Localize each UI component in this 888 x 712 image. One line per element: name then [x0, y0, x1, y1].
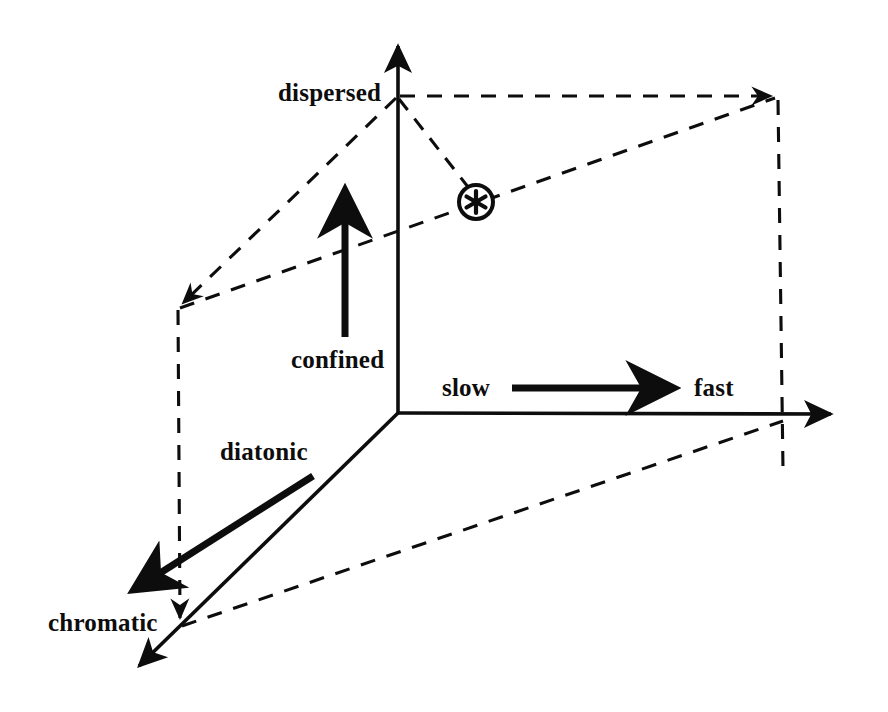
label-slow: slow	[442, 375, 490, 400]
label-chromatic: chromatic	[48, 610, 158, 635]
direction-arrows	[135, 192, 672, 589]
box-edge-top-left-receding	[183, 98, 396, 303]
label-diatonic: diatonic	[220, 439, 308, 464]
diatonic-chromatic-direction-arrow	[135, 476, 313, 589]
box-edge-left-vertical	[178, 310, 180, 618]
label-fast: fast	[694, 375, 734, 400]
marker-connector	[399, 99, 472, 192]
horizontal-axis-line	[398, 413, 831, 414]
label-confined: confined	[291, 347, 384, 372]
dashed-box	[178, 96, 783, 626]
figure-root: dispersed confined slow fast diatonic ch…	[0, 0, 888, 712]
diagram-canvas	[0, 0, 888, 712]
label-dispersed: dispersed	[278, 80, 381, 105]
asterisk-marker[interactable]	[459, 185, 493, 219]
axis-lines	[139, 46, 831, 666]
